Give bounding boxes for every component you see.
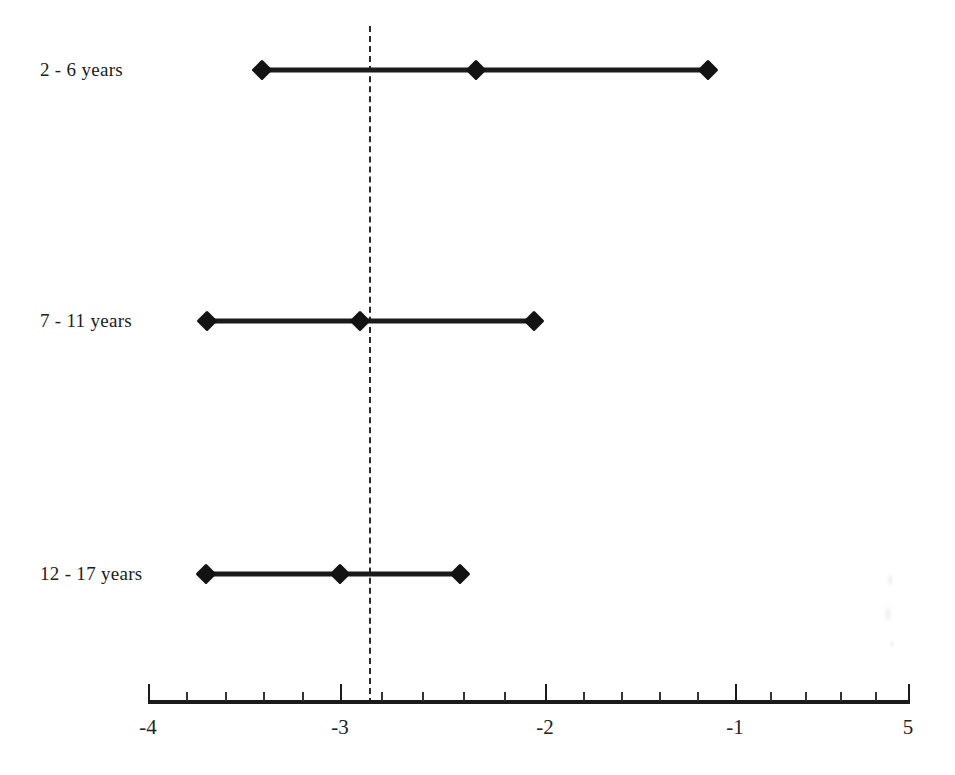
point-estimate-marker [465,59,486,80]
x-axis-major-tick [340,684,342,701]
x-axis-major-tick [148,684,150,701]
x-axis-minor-tick [381,692,383,701]
ci-lower-marker [196,310,217,331]
ci-upper-marker [523,310,544,331]
x-axis-tick-label-minus-1: -1 [726,715,744,740]
x-axis-minor-tick [583,692,585,701]
x-axis-major-tick [545,684,547,701]
x-axis-major-tick [735,684,737,701]
x-axis-minor-tick [422,692,424,701]
x-axis-minor-tick [659,692,661,701]
x-axis-minor-tick [621,692,623,701]
x-axis-minor-tick [186,692,188,701]
forest-plot: 2 - 6 years 7 - 11 years 12 - 17 years [0,0,955,775]
x-axis-minor-tick [805,692,807,701]
x-axis-tick-label-minus-4: -4 [139,715,157,740]
x-axis-minor-tick [770,692,772,701]
reference-line [369,26,371,704]
point-estimate-marker [349,310,370,331]
x-axis-minor-tick [875,692,877,701]
x-axis-tick-label-minus-3: -3 [331,715,349,740]
interval-row-12-17-years [0,562,955,586]
x-axis-minor-tick [504,692,506,701]
x-axis-minor-tick [840,692,842,701]
x-axis-tick-label-minus-2: -2 [536,715,554,740]
x-axis-major-tick [908,684,910,701]
x-axis-tick-label-last: 5 [903,715,914,740]
ci-lower-marker [195,563,216,584]
x-axis-minor-tick [225,692,227,701]
x-axis-minor-tick [697,692,699,701]
x-axis-minor-tick [263,692,265,701]
confidence-interval-bar [207,319,534,324]
ci-upper-marker [449,563,470,584]
interval-row-2-6-years [0,58,955,82]
ci-lower-marker [251,59,272,80]
x-axis-minor-tick [463,692,465,701]
point-estimate-marker [329,563,350,584]
x-axis-minor-tick [302,692,304,701]
ci-upper-marker [697,59,718,80]
interval-row-7-11-years [0,309,955,333]
